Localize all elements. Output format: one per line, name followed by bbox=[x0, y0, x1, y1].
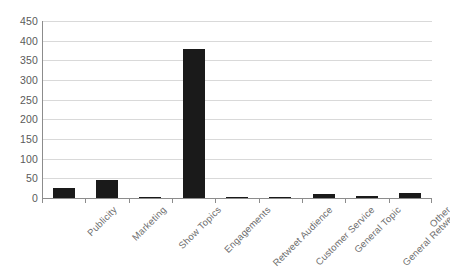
x-tick-mark bbox=[259, 198, 260, 203]
y-tick-label-300: 300 bbox=[20, 74, 38, 86]
y-tick-label-0: 0 bbox=[32, 192, 38, 204]
bar-slot bbox=[215, 21, 258, 198]
bar-slot bbox=[42, 21, 85, 198]
x-tick-mark bbox=[215, 198, 216, 203]
bar-slot bbox=[302, 21, 345, 198]
bar-publicity[interactable] bbox=[53, 188, 75, 198]
bar-slot bbox=[129, 21, 172, 198]
x-tick-mark bbox=[345, 198, 346, 203]
y-tick-label-250: 250 bbox=[20, 94, 38, 106]
x-label-engagements: Engagements bbox=[221, 204, 272, 255]
x-tick-mark bbox=[302, 198, 303, 203]
y-tick-label-150: 150 bbox=[20, 133, 38, 145]
bar-marketing[interactable] bbox=[96, 180, 118, 198]
y-axis-tick-labels: 050100150200250300350400450 bbox=[0, 21, 38, 198]
bar-slot bbox=[345, 21, 388, 198]
x-axis-category-labels: PublicityMarketingShow TopicsEngagements… bbox=[42, 204, 432, 277]
bar-slot bbox=[259, 21, 302, 198]
x-tick-mark bbox=[42, 198, 43, 203]
x-label-show-topics: Show Topics bbox=[177, 204, 224, 251]
y-tick-label-450: 450 bbox=[20, 15, 38, 27]
x-tick-mark bbox=[129, 198, 130, 203]
bar-slot bbox=[389, 21, 432, 198]
x-tick-mark bbox=[85, 198, 86, 203]
bar-chart: 050100150200250300350400450 PublicityMar… bbox=[0, 0, 450, 277]
y-tick-label-50: 50 bbox=[26, 172, 38, 184]
y-tick-label-400: 400 bbox=[20, 35, 38, 47]
x-label-marketing: Marketing bbox=[130, 204, 169, 243]
x-label-publicity: Publicity bbox=[85, 204, 119, 238]
y-tick-label-350: 350 bbox=[20, 54, 38, 66]
y-axis-line bbox=[42, 21, 43, 198]
bar-slot bbox=[85, 21, 128, 198]
bar-slot bbox=[172, 21, 215, 198]
bar-engagements[interactable] bbox=[183, 49, 205, 198]
y-tick-label-100: 100 bbox=[20, 153, 38, 165]
y-tick-label-200: 200 bbox=[20, 113, 38, 125]
x-tick-mark bbox=[389, 198, 390, 203]
x-tick-mark bbox=[431, 198, 432, 203]
bars-layer bbox=[42, 21, 432, 198]
plot-area bbox=[42, 21, 432, 198]
x-tick-mark bbox=[172, 198, 173, 203]
